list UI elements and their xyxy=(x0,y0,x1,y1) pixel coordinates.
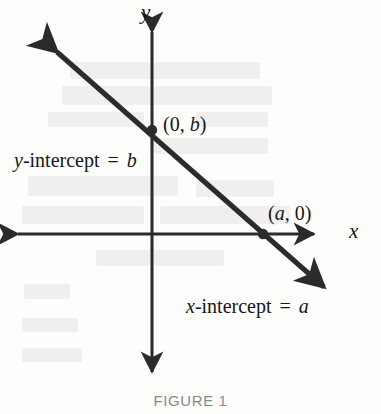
x-intercept-equation: x-intercept = a xyxy=(186,296,309,316)
y-axis-label: y xyxy=(141,2,150,23)
x-intercept-point-label: (a, 0) xyxy=(268,203,311,223)
y-intercept-equation: y-intercept = b xyxy=(14,150,137,170)
figure-1-linear-intercepts: y x (0, b) (a, 0) y-intercept = b x-inte… xyxy=(0,0,381,414)
x-axis-label: x xyxy=(349,221,358,242)
x-intercept-dot xyxy=(258,229,268,239)
y-intercept-point-label: (0, b) xyxy=(163,114,206,134)
figure-caption: FIGURE 1 xyxy=(0,392,381,409)
coordinate-plane-graphic xyxy=(0,0,381,414)
y-intercept-dot xyxy=(147,125,157,135)
